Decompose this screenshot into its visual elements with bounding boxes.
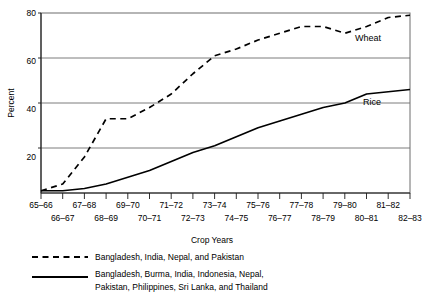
y-axis-title: Percent — [6, 88, 16, 118]
x-tick-label: 82–83 — [398, 213, 422, 223]
x-tick-label: 79–80 — [333, 200, 357, 210]
x-tick-label: 80–81 — [355, 213, 379, 223]
y-tick-label-80: 80 — [27, 8, 37, 18]
x-tick-label: 68–69 — [94, 213, 118, 223]
x-axis-label: Crop Years — [191, 235, 233, 245]
x-tick-label: 74–75 — [224, 213, 248, 223]
y-tick-label-60: 60 — [27, 56, 37, 66]
x-tick-label: 69–70 — [116, 200, 140, 210]
legend-entry-rice-label-line1: Bangladesh, Burma, India, Indonesia, Nep… — [95, 269, 264, 279]
x-tick-label: 72–73 — [181, 213, 205, 223]
y-tick-label-40: 40 — [27, 104, 37, 114]
legend-entry-wheat-label: Bangladesh, India, Nepal, and Pakistan — [95, 252, 244, 262]
x-tick-label: 71–72 — [159, 200, 183, 210]
x-tick-label: 75–76 — [246, 200, 270, 210]
chart-figure: Percent 80 60 40 20 — [0, 0, 429, 306]
series-label-wheat: Wheat — [355, 33, 382, 43]
x-tick-label: 66–67 — [51, 213, 75, 223]
series-rice-line — [41, 90, 410, 191]
x-tick-labels-top-row: 65–66 67–68 69–70 71–72 73–74 75–76 77–7… — [29, 200, 400, 210]
x-tick-label: 78–79 — [311, 213, 335, 223]
legend-entry-rice-label-line2: Pakistan, Philippines, Sri Lanka, and Th… — [95, 282, 268, 292]
line-chart: Percent 80 60 40 20 — [0, 0, 429, 306]
y-tick-label-20: 20 — [27, 152, 37, 162]
x-tick-label: 65–66 — [29, 200, 53, 210]
x-tick-label: 77–78 — [290, 200, 314, 210]
series-label-rice: Rice — [363, 97, 381, 107]
x-tick-labels-bottom-row: 66–67 68–69 70–71 72–73 74–75 76–77 78–7… — [51, 213, 422, 223]
x-tick-label: 81–82 — [376, 200, 400, 210]
x-tick-label: 73–74 — [203, 200, 227, 210]
x-tick-label: 76–77 — [268, 213, 292, 223]
x-tick-label: 67–68 — [73, 200, 97, 210]
x-tickmarks — [41, 193, 410, 199]
x-tick-label: 70–71 — [138, 213, 162, 223]
